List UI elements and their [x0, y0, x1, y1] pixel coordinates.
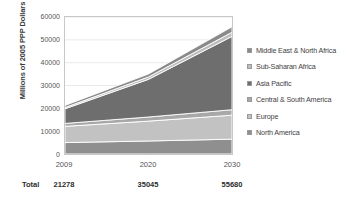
totals-row-label: Total — [22, 180, 39, 189]
plot-canvas — [65, 17, 232, 154]
y-tick-0: 0 — [26, 151, 60, 158]
stacked-area-chart: Millions of 2005 PPP Dollars 60000 50000… — [0, 0, 364, 204]
y-tick-40000: 40000 — [26, 59, 60, 66]
legend-item-north-america[interactable]: North America — [247, 125, 364, 142]
legend-label: Sub-Saharan Africa — [256, 62, 316, 71]
legend-item-sub-saharan-africa[interactable]: Sub-Saharan Africa — [247, 59, 364, 76]
legend-swatch-icon — [247, 48, 252, 53]
x-tick-2030: 2030 — [212, 160, 252, 169]
legend-label: Middle East & North Africa — [256, 46, 336, 55]
y-axis-tick-labels: 60000 50000 40000 30000 20000 10000 0 — [24, 0, 60, 204]
chart-legend: Middle East & North Africa Sub-Saharan A… — [247, 42, 364, 141]
y-tick-30000: 30000 — [26, 82, 60, 89]
total-value-2030: 55680 — [210, 180, 254, 189]
legend-swatch-icon — [247, 97, 252, 102]
legend-item-middle-east-north-africa[interactable]: Middle East & North Africa — [247, 42, 364, 59]
y-tick-20000: 20000 — [26, 105, 60, 112]
legend-label: North America — [256, 128, 300, 137]
legend-swatch-icon — [247, 64, 252, 69]
legend-swatch-icon — [247, 81, 252, 86]
x-tick-2009: 2009 — [44, 160, 84, 169]
legend-label: Europe — [256, 112, 278, 121]
legend-label: Central & South America — [256, 95, 331, 104]
legend-item-central-south-america[interactable]: Central & South America — [247, 92, 364, 109]
total-value-2009: 21278 — [42, 180, 86, 189]
legend-swatch-icon — [247, 130, 252, 135]
y-tick-10000: 10000 — [26, 128, 60, 135]
total-value-2020: 35045 — [126, 180, 170, 189]
x-tick-2020: 2020 — [128, 160, 168, 169]
legend-item-asia-pacific[interactable]: Asia Pacific — [247, 75, 364, 92]
plot-area — [64, 16, 233, 155]
area-series-group — [65, 27, 232, 154]
legend-label: Asia Pacific — [256, 79, 291, 88]
y-tick-60000: 60000 — [26, 13, 60, 20]
y-tick-50000: 50000 — [26, 36, 60, 43]
legend-swatch-icon — [247, 114, 252, 119]
legend-item-europe[interactable]: Europe — [247, 108, 364, 125]
